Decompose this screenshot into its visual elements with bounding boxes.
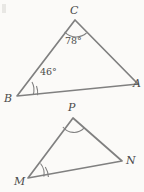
triangle-mpn-shape xyxy=(28,118,122,178)
angle-label-b: 46° xyxy=(40,67,57,77)
vertex-label-c: C xyxy=(70,5,78,16)
vertex-label-a: A xyxy=(133,78,141,89)
vertex-label-m: M xyxy=(14,176,25,187)
vertex-label-b: B xyxy=(4,93,12,104)
triangle-mpn-outline xyxy=(28,118,122,178)
triangles-drawing xyxy=(0,0,144,192)
triangle-abc-outline xyxy=(17,20,138,96)
vertex-label-n: N xyxy=(126,155,136,166)
angle-arc-b-arc1 xyxy=(32,82,34,95)
vertex-label-p: P xyxy=(68,102,75,113)
angle-label-c: 78° xyxy=(65,36,82,46)
geometry-figure: C A B 78° 46° P N M xyxy=(0,0,144,192)
triangle-abc-shape xyxy=(17,20,138,96)
